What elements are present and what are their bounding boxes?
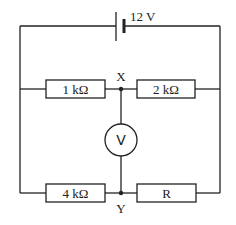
resistor-r-label: R	[162, 186, 171, 201]
resistor-4k: 4 kΩ	[46, 184, 105, 202]
battery-label: 12 V	[130, 9, 156, 24]
node-x-label: X	[116, 69, 126, 84]
node-y: Y	[116, 191, 126, 216]
voltmeter-label: V	[116, 132, 126, 148]
resistor-r: R	[137, 184, 196, 202]
node-x: X	[116, 69, 126, 91]
resistor-1k-label: 1 kΩ	[63, 82, 89, 97]
resistor-2k-label: 2 kΩ	[153, 82, 179, 97]
circuit-svg: 12 V 1 kΩ 2 kΩ 4 kΩ R V X	[0, 0, 236, 225]
resistor-1k: 1 kΩ	[46, 80, 105, 98]
wires	[20, 26, 220, 193]
resistor-4k-label: 4 kΩ	[63, 186, 89, 201]
circuit-diagram: 12 V 1 kΩ 2 kΩ 4 kΩ R V X	[0, 0, 236, 225]
node-y-label: Y	[116, 201, 126, 216]
resistor-2k: 2 kΩ	[137, 80, 195, 98]
battery: 12 V	[116, 9, 156, 41]
voltmeter: V	[105, 124, 137, 156]
